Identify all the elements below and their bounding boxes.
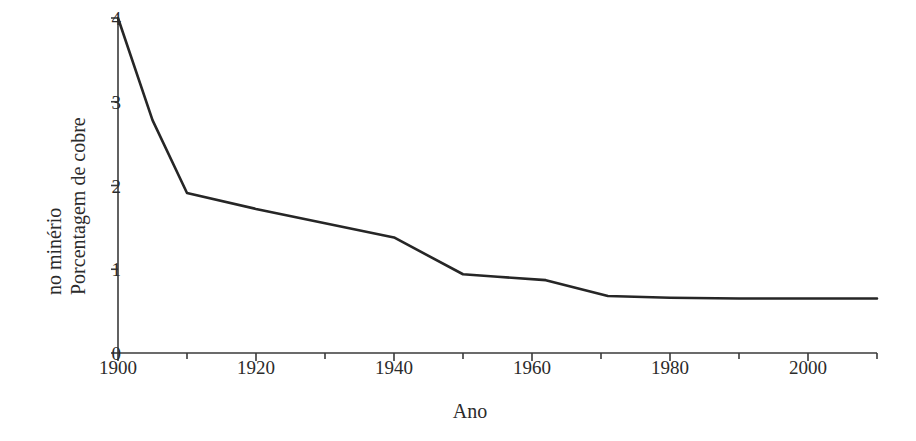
x-axis-tick-label: 1960 [513,358,551,377]
y-axis-tick-label: 2 [112,176,122,195]
y-axis-tick-label: 3 [112,92,122,111]
x-axis-tick-label: 2000 [789,358,827,377]
y-axis-tick-label: 0 [112,344,122,363]
x-axis-tick-label: 1920 [237,358,275,377]
data-series-line [118,18,877,299]
line-chart-plot [0,0,916,441]
y-axis-title-line-1: Porcentagem de cobre [68,117,88,295]
y-axis-tick-label: 4 [112,9,122,28]
y-axis-title: Porcentagem de cobre no minério [0,0,100,380]
x-axis-ticks [118,353,877,361]
chart-figure: 190019201940196019802000 01234 Ano Porce… [0,0,916,441]
y-axis-tick-label: 1 [112,260,122,279]
x-axis-tick-label: 1940 [375,358,413,377]
x-axis-tick-label: 1980 [651,358,689,377]
x-axis-title: Ano [453,400,487,423]
y-axis-title-line-2: no minério [44,208,64,295]
